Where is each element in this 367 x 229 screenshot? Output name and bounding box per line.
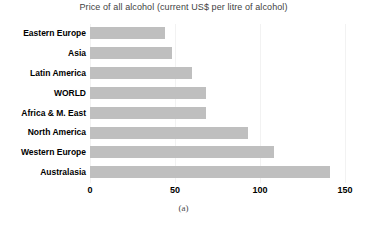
- bar-chart-figure: Price of all alcohol (current US$ per li…: [0, 0, 367, 229]
- bar-row: [90, 163, 345, 183]
- bar: [90, 27, 165, 39]
- bar-row: [90, 44, 345, 64]
- plot-area: [90, 24, 345, 183]
- category-label: North America: [0, 123, 86, 143]
- bar: [90, 146, 274, 158]
- bar-row: [90, 143, 345, 163]
- x-tick-label: 150: [337, 185, 352, 195]
- category-label: Latin America: [0, 64, 86, 84]
- x-tick-label: 100: [252, 185, 267, 195]
- bar-row: [90, 64, 345, 84]
- bar-row: [90, 123, 345, 143]
- figure-caption: (a): [0, 203, 367, 213]
- value-axis: 050100150: [90, 185, 345, 199]
- category-label: Western Europe: [0, 143, 86, 163]
- bar-row: [90, 104, 345, 124]
- bars-layer: [90, 24, 345, 183]
- bar-row: [90, 84, 345, 104]
- category-label: Australasia: [0, 163, 86, 183]
- bar: [90, 87, 206, 99]
- x-tick-label: 0: [87, 185, 92, 195]
- category-label: Africa & M. East: [0, 104, 86, 124]
- bar: [90, 47, 172, 59]
- bar: [90, 107, 206, 119]
- x-tick-label: 50: [170, 185, 180, 195]
- bar: [90, 67, 192, 79]
- gridline-150: [345, 24, 346, 183]
- bar: [90, 166, 330, 178]
- category-axis: Eastern EuropeAsiaLatin AmericaWORLDAfri…: [0, 24, 86, 183]
- chart-title: Price of all alcohol (current US$ per li…: [0, 2, 367, 12]
- bar: [90, 127, 248, 139]
- category-label: Asia: [0, 44, 86, 64]
- category-label: WORLD: [0, 84, 86, 104]
- bar-row: [90, 24, 345, 44]
- category-label: Eastern Europe: [0, 24, 86, 44]
